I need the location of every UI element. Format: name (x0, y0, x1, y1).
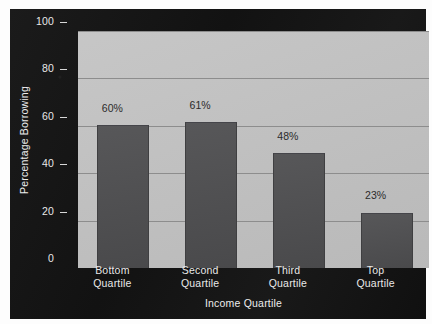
y-axis-title: Percentage Borrowing (18, 70, 30, 210)
y-tick-label: 80 (10, 62, 54, 74)
x-category-line: Top (332, 264, 420, 277)
x-category-line: Second (156, 264, 244, 277)
x-category-label: BottomQuartile (68, 264, 156, 290)
y-tick-label: 20 (10, 205, 54, 217)
chart-figure: Percentage Borrowing 020406080100 60%61%… (0, 0, 432, 324)
y-tick-mark (60, 69, 67, 70)
y-tick-mark (60, 22, 67, 23)
chart-panel: Percentage Borrowing 020406080100 60%61%… (10, 9, 426, 319)
bar-value-label: 23% (346, 189, 406, 201)
y-tick-mark (60, 212, 67, 213)
x-category-line: Bottom (68, 264, 156, 277)
bar-value-label: 48% (258, 130, 318, 142)
y-tick-mark (60, 164, 67, 165)
bar (361, 213, 413, 269)
x-category-line: Quartile (68, 277, 156, 290)
x-category-label: SecondQuartile (156, 264, 244, 290)
bar (273, 153, 325, 268)
y-tick-label: 60 (10, 110, 54, 122)
gridline (78, 31, 429, 32)
x-category-line: Quartile (244, 277, 332, 290)
bar-value-label: 60% (82, 102, 142, 114)
bar (97, 125, 149, 268)
x-category-label: TopQuartile (332, 264, 420, 290)
bar (185, 122, 237, 268)
y-tick-label: 100 (10, 15, 54, 27)
y-tick-label: 40 (10, 157, 54, 169)
gridline (78, 78, 429, 79)
x-category-line: Quartile (156, 277, 244, 290)
bar-value-label: 61% (170, 99, 230, 111)
y-tick-mark (60, 117, 67, 118)
x-category-line: Third (244, 264, 332, 277)
x-category-line: Quartile (332, 277, 420, 290)
x-category-label: ThirdQuartile (244, 264, 332, 290)
x-axis-title: Income Quartile (164, 297, 324, 309)
y-tick-label: 0 (10, 252, 54, 264)
plot-area (78, 31, 429, 268)
